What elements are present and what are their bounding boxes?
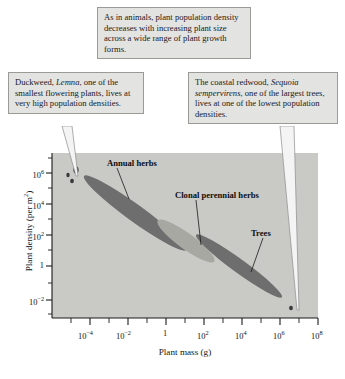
x-tick-label-1e8: 108 (311, 329, 322, 341)
x-axis-title-text: Plant mass (g) (159, 347, 212, 357)
callout-general-trend-text: As in animals, plant population density … (104, 12, 239, 54)
plant-density-figure: As in animals, plant population density … (0, 0, 345, 379)
y-axis-title-exponent: 2 (22, 194, 29, 197)
x-axis-ticks (90, 318, 318, 325)
x-axis-title: Plant mass (g) (52, 347, 318, 357)
callout-duckweed: Duckweed, Lemna, one of the smallest flo… (8, 72, 144, 114)
x-tick-label-1e-2: 10−2 (116, 329, 131, 341)
x-tick-label-1e-4: 10−4 (78, 329, 93, 341)
x-tick-label-1: 1 (163, 329, 167, 338)
callout-redwood: The coastal redwood, Sequoia semperviren… (188, 72, 338, 124)
callout-general-trend: As in animals, plant population density … (97, 7, 251, 59)
group-label-clonal-perennial-herbs: Clonal perennial herbs (175, 190, 259, 200)
y-axis-title-close: ) (24, 191, 34, 194)
pointer-duckweed (40, 126, 120, 178)
x-axis-minor-ticks (71, 318, 299, 323)
y-axis-title: Plant density (per m2) (22, 151, 34, 311)
callout-redwood-lead: The coastal redwood, (195, 77, 271, 87)
x-tick-label-1e6: 106 (273, 329, 284, 341)
callout-duckweed-species: Lemna (56, 77, 79, 87)
y-axis-ticks (46, 173, 52, 300)
callout-duckweed-lead: Duckweed, (15, 77, 56, 87)
y-axis-minor-ticks (48, 158, 52, 314)
x-tick-label-1e4: 104 (235, 329, 246, 341)
pointer-redwood (262, 126, 332, 312)
x-tick-label-1e2: 102 (197, 329, 208, 341)
ellipse-annual-herbs (79, 169, 191, 257)
duckweed-point-3 (70, 179, 74, 184)
y-axis-title-text: Plant density (per m (24, 197, 34, 271)
